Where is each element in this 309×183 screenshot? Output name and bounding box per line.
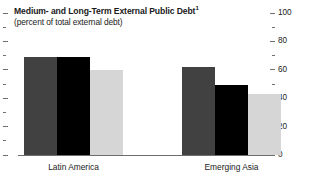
y-tick-minor-left	[3, 55, 6, 56]
bar	[57, 57, 90, 155]
y-tick-major-left	[3, 155, 8, 156]
y-tick-major-left	[3, 98, 8, 99]
y-tick-major-left	[3, 126, 8, 127]
y-tick-major-right	[270, 13, 275, 14]
y-tick-major-left	[3, 41, 8, 42]
y-tick-label: 80	[278, 37, 287, 45]
y-tick-minor-left	[3, 27, 6, 28]
bar	[248, 94, 281, 155]
y-tick-minor-right	[272, 27, 275, 28]
y-tick-label: 60	[278, 66, 287, 74]
bar	[182, 67, 215, 155]
chart-figure: Medium- and Long-Term External Public De…	[0, 0, 309, 183]
x-axis-baseline	[18, 155, 272, 156]
y-tick-major-right	[270, 41, 275, 42]
category-label: Emerging Asia	[182, 162, 281, 172]
chart-title-footnote-marker: 1	[195, 4, 198, 11]
bar	[24, 57, 57, 155]
y-tick-major-left	[3, 13, 8, 14]
y-tick-minor-left	[3, 140, 6, 141]
y-tick-minor-left	[3, 112, 6, 113]
y-tick-label: 100	[278, 9, 292, 17]
category-label: Latin America	[24, 162, 123, 172]
y-tick-minor-right	[272, 84, 275, 85]
y-tick-minor-right	[272, 55, 275, 56]
bar	[90, 70, 123, 155]
bar	[215, 85, 248, 155]
y-tick-major-left	[3, 69, 8, 70]
y-tick-major-right	[270, 69, 275, 70]
y-tick-minor-left	[3, 84, 6, 85]
